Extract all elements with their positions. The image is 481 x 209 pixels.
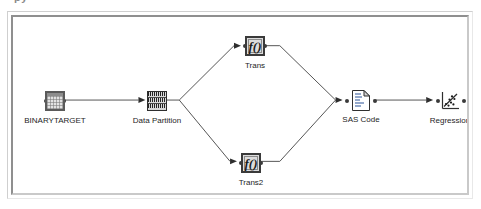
node-binarytarget[interactable]: BINARYTARGET [18, 89, 92, 126]
transform2-fx-glyph: f() [245, 157, 258, 170]
partition-band-validate [148, 98, 166, 102]
node-trans-glyph-row: f() [218, 34, 292, 58]
transform-function-icon[interactable]: f() [241, 153, 261, 173]
node-binarytarget-glyph-row [18, 89, 92, 113]
node-regression-label: Regression [413, 116, 467, 126]
node-trans-label: Trans [218, 61, 292, 71]
scatter-regression-icon[interactable] [440, 91, 460, 111]
diagram-window-inner-bevel: BINARYTARGET Data Partition [11, 15, 469, 195]
node-regression[interactable]: Regression [413, 89, 467, 126]
node-trans2-label: Trans2 [214, 178, 288, 188]
data-partition-icon[interactable] [147, 91, 167, 111]
node-data-partition[interactable]: Data Partition [120, 89, 194, 126]
diagram-window-frame: BINARYTARGET Data Partition [7, 11, 473, 199]
process-flow-canvas[interactable]: BINARYTARGET Data Partition [13, 17, 467, 193]
node-binarytarget-label: BINARYTARGET [18, 116, 92, 126]
node-data-partition-label: Data Partition [120, 116, 194, 126]
node-sas-code-label: SAS Code [324, 115, 398, 125]
document-code-icon[interactable] [352, 90, 370, 111]
data-table-icon[interactable] [45, 91, 65, 111]
transform-fx-glyph: f() [249, 40, 262, 53]
partition-band-train [148, 92, 166, 96]
node-regression-glyph-row [413, 89, 467, 113]
transform-function-icon[interactable]: f() [245, 36, 265, 56]
node-trans2-glyph-row: f() [214, 151, 288, 175]
node-data-partition-glyph-row [120, 89, 194, 113]
clipped-header-text: py [14, 0, 28, 3]
node-trans2[interactable]: f() Trans2 [214, 151, 288, 188]
node-sas-code-glyph-row [324, 88, 398, 112]
node-sas-code[interactable]: SAS Code [324, 88, 398, 125]
partition-band-test [148, 104, 166, 108]
node-trans[interactable]: f() Trans [218, 34, 292, 71]
